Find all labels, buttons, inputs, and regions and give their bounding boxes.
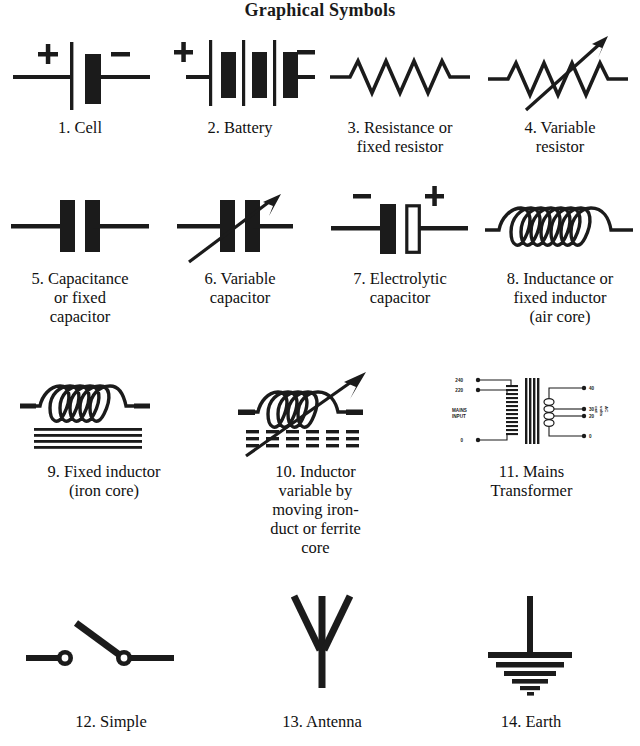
air-core-inductor-symbol-art [481,186,639,266]
battery-symbol: 2. Battery [160,32,320,156]
page-title: Graphical Symbols [0,0,640,21]
resistor-symbol-caption: 3. Resistance or fixed resistor [348,118,453,156]
resistor-symbol: 3. Resistance or fixed resistor [320,32,480,156]
transformer-mains-label-line2: INPUT [452,414,466,419]
cell-symbol-caption: 1. Cell [58,118,102,137]
transformer-mains-label-line1: MAINS [452,408,467,413]
air-core-inductor-symbol: 8. Inductance or fixed inductor (air cor… [480,186,640,326]
capacitor-symbol-art [5,186,155,266]
antenna-symbol: 13. Antenna [222,588,422,731]
electrolytic-capacitor-symbol-caption: 7. Electrolytic capacitor [353,269,446,307]
variable-inductor-symbol-caption: 10. Inductor variable by moving iron- du… [270,462,361,557]
switch-symbol-caption: 12. Simple [75,712,147,731]
electrolytic-capacitor-symbol-art [325,186,475,266]
transformer-secondary-tap-20: 20 [589,414,595,419]
variable-resistor-symbol-art [484,32,636,114]
symbol-row-2: 5. Capacitance or fixed capacitor 6. Var… [0,186,640,326]
earth-symbol: 14. Earth [422,588,640,731]
variable-capacitor-symbol: 6. Variable capacitor [160,186,320,326]
capacitor-symbol-caption: 5. Capacitance or fixed capacitor [31,269,128,326]
switch-symbol-art [16,588,206,696]
symbol-row-3: 9. Fixed inductor (iron core) [0,372,640,557]
symbol-row-4: 12. Simple 13. Antenna [0,588,640,731]
earth-symbol-art [476,588,586,696]
graphical-symbols-page: Graphical Symbols [0,0,640,746]
battery-symbol-art [164,32,316,114]
switch-symbol: 12. Simple [0,588,222,731]
antenna-symbol-caption: 13. Antenna [282,712,362,731]
mains-transformer-symbol-caption: 11. Mains Transformer [491,462,573,500]
electrolytic-capacitor-symbol: 7. Electrolytic capacitor [320,186,480,326]
variable-inductor-symbol-art [216,372,416,458]
capacitor-symbol: 5. Capacitance or fixed capacitor [0,186,160,326]
cell-symbol: 1. Cell [0,32,160,156]
transformer-secondary-tap-0: 0 [589,434,592,439]
transformer-secondary-tap-30: 30 [589,407,595,412]
transformer-primary-tap-240: 240 [455,378,463,383]
mains-transformer-symbol: 240 220 0 MAINS INPUT 40 30 20 0 AC volt… [423,372,640,557]
transformer-primary-tap-220: 220 [455,388,463,393]
mains-transformer-symbol-art: 240 220 0 MAINS INPUT 40 30 20 0 AC volt… [449,372,614,458]
symbol-row-1: 1. Cell [0,32,640,156]
antenna-symbol-art [262,588,382,696]
variable-capacitor-symbol-caption: 6. Variable capacitor [204,269,275,307]
iron-core-inductor-symbol: 9. Fixed inductor (iron core) [0,372,208,557]
variable-resistor-symbol-caption: 4. Variable resistor [524,118,595,156]
variable-capacitor-symbol-art [165,186,315,266]
transformer-primary-tap-0: 0 [460,438,463,443]
iron-core-inductor-symbol-caption: 9. Fixed inductor (iron core) [47,462,160,500]
resistor-symbol-art [324,32,476,114]
earth-symbol-caption: 14. Earth [501,712,561,731]
transformer-secondary-tap-40: 40 [589,386,595,391]
transformer-output-label-line3: out [594,406,599,413]
air-core-inductor-symbol-caption: 8. Inductance or fixed inductor (air cor… [507,269,614,326]
iron-core-inductor-symbol-art [12,372,197,458]
cell-symbol-art [5,32,155,114]
variable-resistor-symbol: 4. Variable resistor [480,32,640,156]
variable-inductor-symbol: 10. Inductor variable by moving iron- du… [208,372,423,557]
battery-symbol-caption: 2. Battery [207,118,272,137]
